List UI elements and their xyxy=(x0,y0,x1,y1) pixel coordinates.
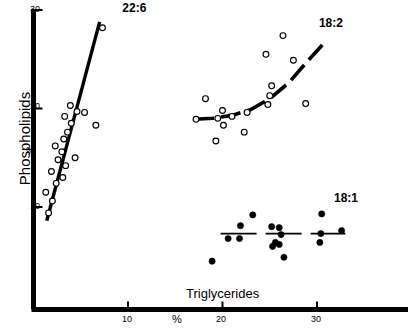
data-point xyxy=(49,169,55,175)
data-point xyxy=(209,258,215,264)
data-point xyxy=(55,157,61,163)
data-point xyxy=(100,25,106,31)
data-point xyxy=(52,143,58,149)
data-point xyxy=(237,223,243,229)
data-point xyxy=(303,101,309,107)
x-axis-percent-label: % xyxy=(172,313,182,325)
data-point xyxy=(50,198,56,204)
data-point xyxy=(338,228,344,234)
data-point xyxy=(276,241,282,247)
data-point xyxy=(244,110,250,116)
plot-canvas xyxy=(0,0,418,331)
data-point xyxy=(236,235,242,241)
data-point xyxy=(213,138,219,144)
y-tick-label-10: 10 xyxy=(30,201,40,211)
series-label-22-6: 22:6 xyxy=(122,1,146,15)
data-point xyxy=(265,102,271,108)
fit-line-18:2 xyxy=(194,43,325,120)
data-point xyxy=(53,180,59,186)
x-tick-label-30: 30 xyxy=(311,314,321,324)
x-axis-title: Triglycerides xyxy=(186,286,259,301)
data-point xyxy=(221,122,227,128)
y-tick-label-30: 30 xyxy=(30,4,40,14)
data-point xyxy=(267,93,273,99)
data-point xyxy=(269,243,275,249)
data-point xyxy=(281,254,287,260)
y-tick-label-20: 20 xyxy=(30,101,40,111)
data-point xyxy=(269,224,275,230)
data-point xyxy=(72,155,78,161)
data-point xyxy=(319,211,325,217)
data-point xyxy=(193,116,199,122)
data-point xyxy=(60,175,66,181)
data-point xyxy=(43,189,49,195)
data-point xyxy=(276,225,282,231)
data-point xyxy=(220,108,226,114)
data-point xyxy=(278,231,284,237)
data-point xyxy=(65,129,71,135)
data-point xyxy=(229,113,235,119)
data-point xyxy=(82,110,88,116)
series-label-18-1: 18:1 xyxy=(334,191,358,205)
scatter-plot-figure: Phospholipids Triglycerides % % 30 20 10… xyxy=(0,0,418,331)
data-point xyxy=(215,115,221,121)
series-label-18-2: 18:2 xyxy=(319,16,343,30)
data-point xyxy=(93,122,99,128)
data-point xyxy=(59,149,65,155)
data-point xyxy=(280,33,286,39)
data-point xyxy=(63,163,69,169)
data-point xyxy=(67,103,73,109)
data-point xyxy=(203,96,209,102)
data-point xyxy=(74,109,80,115)
axes-layer xyxy=(32,9,409,310)
x-tick-label-20: 20 xyxy=(216,314,226,324)
data-point xyxy=(62,113,68,119)
x-tick-label-10: 10 xyxy=(122,314,132,324)
data-point xyxy=(269,83,275,89)
fit-lines-layer xyxy=(47,22,346,234)
data-point xyxy=(317,239,323,245)
data-point xyxy=(318,230,324,236)
data-point xyxy=(46,210,52,216)
data-point xyxy=(250,212,256,218)
y-axis-percent-label: % xyxy=(26,145,36,157)
data-point xyxy=(263,51,269,57)
data-point xyxy=(225,235,231,241)
data-point xyxy=(290,57,296,63)
data-point xyxy=(241,129,247,135)
data-point xyxy=(68,120,74,126)
data-point xyxy=(61,136,67,142)
